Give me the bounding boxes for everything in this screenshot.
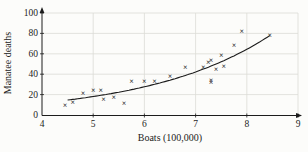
x-tick-label: 4 <box>40 119 45 129</box>
data-point-marker: × <box>122 99 127 108</box>
x-tick-label: 8 <box>244 119 249 129</box>
data-point-marker: × <box>152 77 157 86</box>
data-point-marker: × <box>183 63 188 72</box>
data-point-marker: × <box>214 65 219 74</box>
data-point-marker: × <box>70 98 75 107</box>
data-point-marker: × <box>142 77 147 86</box>
x-axis-arrowhead <box>296 113 302 118</box>
y-tick-label: 60 <box>29 49 39 59</box>
x-tick-label: 6 <box>142 119 147 129</box>
data-point-marker: × <box>209 56 214 65</box>
x-axis-title: Boats (100,000) <box>138 132 202 144</box>
data-point-marker: × <box>268 31 273 40</box>
y-tick-label: 0 <box>33 110 38 120</box>
data-point-marker: × <box>63 101 68 110</box>
data-point-marker: × <box>232 41 237 50</box>
data-point-marker: × <box>111 93 116 102</box>
y-tick-label: 40 <box>29 69 39 79</box>
data-point-marker: × <box>239 27 244 36</box>
scatter-plot-figure: 456789020406080100××××××××××××××××××××××… <box>0 0 308 152</box>
data-point-marker: × <box>129 77 134 86</box>
y-tick-label: 100 <box>24 8 39 18</box>
data-point-marker: × <box>219 51 224 60</box>
data-point-marker: × <box>81 89 86 98</box>
y-tick-label: 20 <box>29 90 39 100</box>
x-tick-label: 5 <box>91 119 96 129</box>
data-point-marker: × <box>91 86 96 95</box>
y-tick-label: 80 <box>29 28 39 38</box>
y-axis-title: Manatee deaths <box>2 32 13 95</box>
data-point-marker: × <box>101 95 106 104</box>
x-tick-label: 7 <box>193 119 198 129</box>
data-point-marker: × <box>168 72 173 81</box>
data-point-marker: × <box>201 63 206 72</box>
x-tick-label: 9 <box>296 119 301 129</box>
scatter-plot: 456789020406080100××××××××××××××××××××××… <box>0 0 308 152</box>
data-point-marker: × <box>209 78 214 87</box>
data-point-marker: × <box>221 62 226 71</box>
y-axis-arrowhead <box>40 7 45 13</box>
